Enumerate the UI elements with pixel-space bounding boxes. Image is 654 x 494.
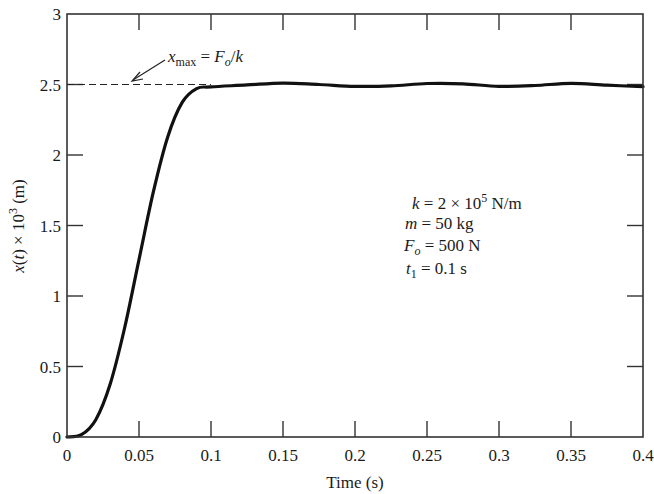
y-tick-label: 2 [53, 146, 62, 165]
param-m: m = 50 kg [405, 214, 474, 234]
x-tick-label: 0.25 [412, 446, 442, 465]
x-axis-title: Time (s) [326, 473, 383, 492]
xmax-annotation: xmax = Fo/k [168, 47, 243, 70]
response-curve [67, 83, 643, 437]
y-tick-label: 0.5 [40, 358, 61, 377]
x-tick-label: 0.1 [200, 446, 221, 465]
y-tick-label: 0 [53, 428, 62, 447]
x-tick-label: 0.35 [556, 446, 586, 465]
x-tick-label: 0.2 [344, 446, 365, 465]
chart-svg: 00.050.10.150.20.250.30.350.400.511.522.… [0, 0, 654, 494]
x-tick-label: 0.4 [632, 446, 654, 465]
param-Fo: Fo = 500 N [404, 236, 481, 259]
y-tick-label: 2.5 [40, 76, 61, 95]
x-tick-label: 0.05 [124, 446, 154, 465]
x-tick-label: 0 [63, 446, 72, 465]
tick-labels: 00.050.10.150.20.250.30.350.400.511.522.… [40, 5, 654, 465]
axis-ticks [67, 14, 643, 437]
x-tick-label: 0.15 [268, 446, 298, 465]
y-tick-label: 1 [53, 287, 62, 306]
y-tick-label: 1.5 [40, 217, 61, 236]
param-k: k = 2 × 105 N/m [412, 191, 522, 214]
param-t1: t1 = 0.1 s [406, 259, 467, 282]
annotation-arrow-icon [132, 60, 165, 81]
plot-frame [67, 14, 643, 437]
x-tick-label: 0.3 [488, 446, 509, 465]
y-tick-label: 3 [53, 5, 62, 24]
y-axis-title: x(t) × 103 (m) [6, 151, 29, 301]
